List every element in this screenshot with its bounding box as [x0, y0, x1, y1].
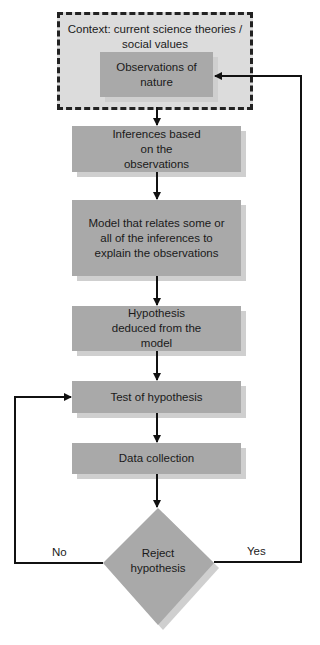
- label-no: No: [52, 546, 67, 558]
- label-yes: Yes: [247, 545, 266, 557]
- node-decision: Reject hypothesis: [118, 546, 198, 576]
